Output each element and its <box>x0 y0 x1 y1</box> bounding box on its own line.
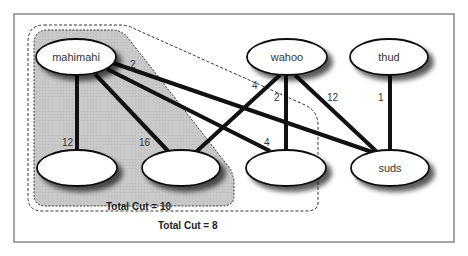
edge-weight-wahoo-suds: 12 <box>327 92 339 103</box>
node-label-thud: thud <box>378 51 399 63</box>
node-label-suds: suds <box>378 162 402 174</box>
edge-weight-mahimahi-suds: 2 <box>130 59 136 70</box>
diagram-stage: mahimahi wahoo thud suds 12 16 4 2 4 2 1… <box>0 0 468 256</box>
edge-weight-mahimahi-n2: 16 <box>139 137 151 148</box>
node-label-mahimahi: mahimahi <box>52 51 100 63</box>
edge-weight-mahimahi-n3: 4 <box>264 137 270 148</box>
node-unnamed-1 <box>37 150 117 186</box>
edge-weight-mahimahi-n1: 12 <box>62 137 74 148</box>
node-unnamed-3 <box>246 150 326 186</box>
graph-diagram: mahimahi wahoo thud suds 12 16 4 2 4 2 1… <box>0 0 468 256</box>
partition-label-cut-8: Total Cut = 8 <box>158 220 218 231</box>
edge-weight-thud-suds: 1 <box>378 92 384 103</box>
edge-weight-wahoo-n3: 2 <box>274 92 280 103</box>
node-label-wahoo: wahoo <box>270 51 303 63</box>
partition-label-cut-10: Total Cut = 10 <box>106 201 172 212</box>
edge-weight-wahoo-n2: 4 <box>252 80 258 91</box>
node-unnamed-2 <box>142 150 220 186</box>
